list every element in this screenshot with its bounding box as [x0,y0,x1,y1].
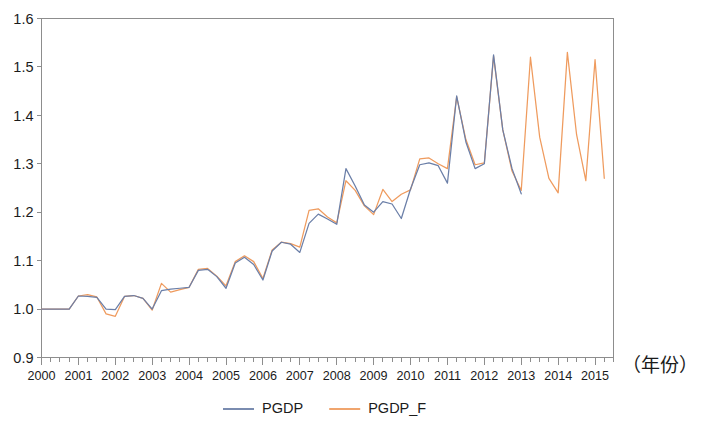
y-tick-label-1.6: 1.6 [13,11,33,27]
x-tick-label-2006: 2006 [249,369,277,383]
x-tick-label-2009: 2009 [360,369,388,383]
x-axis-caption: （年份） [622,355,698,376]
x-tick-label-2010: 2010 [397,369,425,383]
x-tick-label-2012: 2012 [470,369,498,383]
y-tick-label-1.4: 1.4 [13,108,33,124]
x-tick-label-2001: 2001 [64,369,92,383]
y-tick-label-1.0: 1.0 [13,301,33,317]
x-tick-label-2015: 2015 [581,369,609,383]
y-tick-label-1.1: 1.1 [13,253,33,269]
y-tick-label-1.2: 1.2 [13,204,33,220]
x-tick-label-2013: 2013 [507,369,535,383]
plot-frame [42,19,614,358]
series-line-pgdp [42,55,522,310]
x-tick-label-2002: 2002 [101,369,129,383]
x-tick-label-2004: 2004 [175,369,203,383]
y-tick-label-0.9: 0.9 [13,350,33,366]
x-tick-label-2011: 2011 [434,369,461,383]
x-tick-label-2003: 2003 [138,369,166,383]
y-tick-label-1.3: 1.3 [13,156,33,172]
legend-label-pgdp: PGDP [262,400,303,416]
y-tick-label-1.5: 1.5 [13,59,33,75]
chart-figure: 0.91.01.11.21.31.41.51.62000200120022003… [0,0,708,431]
x-tick-label-2014: 2014 [544,369,572,383]
x-tick-label-2005: 2005 [212,369,240,383]
legend-label-pgdp-f: PGDP_F [368,400,426,416]
x-tick-label-2000: 2000 [27,369,55,383]
series-line-pgdp-f [42,52,605,316]
x-tick-label-2008: 2008 [323,369,351,383]
x-tick-label-2007: 2007 [286,369,314,383]
line-chart-svg: 0.91.01.11.21.31.41.51.62000200120022003… [0,0,708,431]
